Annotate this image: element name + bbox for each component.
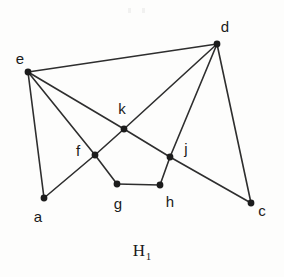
graph-vertex-k — [121, 126, 128, 133]
graph-edge-e-k — [28, 72, 124, 129]
graph-edge-f-g — [95, 155, 117, 184]
graph-edge-e-a — [28, 72, 44, 198]
caption-base: H — [133, 241, 145, 260]
vertex-label-e: e — [16, 51, 24, 66]
vertex-label-a: a — [34, 209, 42, 224]
edge-group — [28, 44, 251, 203]
graph-vertex-h — [157, 182, 164, 189]
graph-edge-e-d — [28, 44, 217, 72]
figure-container: acdefghjk H1 — [0, 0, 284, 277]
vertex-label-f: f — [76, 143, 80, 158]
graph-vertex-a — [41, 195, 48, 202]
vertex-label-g: g — [114, 196, 122, 211]
graph-edge-a-f — [44, 155, 95, 198]
graph-vertex-c — [248, 200, 255, 207]
vertex-group — [25, 41, 255, 207]
graph-edge-j-c — [170, 157, 251, 203]
vertex-label-c: c — [258, 203, 266, 218]
caption-subscript: 1 — [145, 251, 151, 263]
graph-vertex-g — [114, 181, 121, 188]
vertex-label-k: k — [118, 101, 126, 116]
figure-caption: H1 — [133, 241, 151, 262]
graph-vertex-d — [214, 41, 221, 48]
graph-edge-g-h — [117, 184, 160, 185]
graph-edge-k-d — [124, 44, 217, 129]
graph-edge-f-k — [95, 129, 124, 155]
graph-drawing — [0, 0, 284, 277]
graph-vertex-e — [25, 69, 32, 76]
graph-edge-e-f — [28, 72, 95, 155]
vertex-label-h: h — [166, 194, 174, 209]
vertex-label-j: j — [184, 141, 187, 156]
vertex-label-d: d — [221, 19, 229, 34]
graph-edge-d-c — [217, 44, 251, 203]
graph-vertex-f — [92, 152, 99, 159]
graph-edge-j-d — [170, 44, 217, 157]
graph-edge-j-k — [124, 129, 170, 157]
graph-edge-h-j — [160, 157, 170, 185]
graph-vertex-j — [167, 154, 174, 161]
